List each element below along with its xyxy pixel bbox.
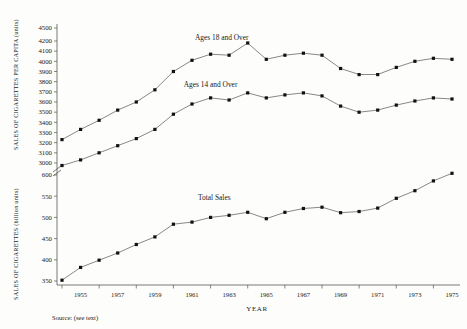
- y-tick-label: 3300: [38, 129, 52, 136]
- data-point: [135, 243, 138, 246]
- y-tick-label: 400: [42, 256, 53, 263]
- data-point: [302, 207, 305, 210]
- series-label: Total Sales: [198, 193, 231, 202]
- data-point: [320, 94, 323, 97]
- x-tick-label: 1955: [74, 291, 88, 298]
- data-point: [246, 41, 249, 44]
- data-point: [265, 58, 268, 61]
- data-point: [79, 158, 82, 161]
- series-line: [62, 93, 452, 166]
- data-point: [98, 119, 101, 122]
- y-tick-label: 4000: [38, 58, 52, 65]
- data-point: [190, 102, 193, 105]
- x-tick-label: 1969: [334, 291, 348, 298]
- data-point: [209, 96, 212, 99]
- series-line: [62, 173, 452, 280]
- data-point: [395, 104, 398, 107]
- data-point: [283, 93, 286, 96]
- y-tick-label: 3600: [38, 98, 52, 105]
- data-point: [98, 151, 101, 154]
- data-point: [320, 54, 323, 57]
- data-point: [450, 58, 453, 61]
- x-tick-label: 1963: [223, 291, 237, 298]
- y-tick-label: 3500: [38, 108, 52, 115]
- data-point: [358, 210, 361, 213]
- x-tick-label: 1973: [408, 291, 422, 298]
- series-label: Ages 14 and Over: [184, 80, 238, 89]
- x-tick-label: 1957: [111, 291, 125, 298]
- data-point: [228, 98, 231, 101]
- data-point: [320, 206, 323, 209]
- data-point: [413, 189, 416, 192]
- y-tick-label: 500: [42, 214, 53, 221]
- data-point: [432, 96, 435, 99]
- x-tick-label: 1965: [260, 291, 274, 298]
- x-axis-title: YEAR: [246, 305, 267, 313]
- data-point: [246, 91, 249, 94]
- line-chart: 3000310032003300340035003600370038003900…: [0, 0, 467, 329]
- data-point: [190, 221, 193, 224]
- x-tick-label: 1959: [148, 291, 162, 298]
- data-point: [153, 128, 156, 131]
- y-tick-label: 4500: [38, 24, 52, 31]
- y-tick-label: 550: [42, 193, 53, 200]
- data-point: [153, 235, 156, 238]
- series-3: Total Sales: [60, 172, 453, 282]
- data-point: [60, 279, 63, 282]
- data-point: [135, 137, 138, 140]
- data-point: [246, 211, 249, 214]
- data-point: [60, 138, 63, 141]
- source-note: Source: (see text): [52, 314, 98, 322]
- data-point: [283, 54, 286, 57]
- y-tick-label: 3700: [38, 88, 52, 95]
- data-point: [302, 52, 305, 55]
- data-point: [79, 266, 82, 269]
- x-tick-label: 1961: [185, 291, 198, 298]
- data-point: [450, 172, 453, 175]
- x-tick-label: 1967: [297, 291, 311, 298]
- y-tick-label: 600: [42, 171, 53, 178]
- data-point: [413, 60, 416, 63]
- series-1: Ages 18 and Over: [60, 33, 453, 142]
- series-label: Ages 18 and Over: [195, 33, 249, 42]
- data-point: [265, 96, 268, 99]
- data-point: [339, 211, 342, 214]
- data-point: [283, 211, 286, 214]
- data-point: [413, 99, 416, 102]
- data-point: [116, 109, 119, 112]
- data-point: [116, 144, 119, 147]
- y-tick-label: 3100: [38, 149, 52, 156]
- data-point: [376, 207, 379, 210]
- data-point: [265, 217, 268, 220]
- x-tick-label: 1975: [445, 291, 459, 298]
- data-point: [172, 223, 175, 226]
- y-tick-label: 3400: [38, 119, 52, 126]
- data-point: [339, 67, 342, 70]
- data-point: [79, 128, 82, 131]
- x-tick-label: 1971: [371, 291, 384, 298]
- data-point: [228, 214, 231, 217]
- figure-container: SALES OF CIGARETTES PER CAPITA (units) S…: [0, 0, 467, 329]
- data-point: [153, 88, 156, 91]
- data-point: [432, 179, 435, 182]
- data-point: [432, 57, 435, 60]
- data-point: [358, 111, 361, 114]
- data-point: [190, 59, 193, 62]
- data-point: [358, 73, 361, 76]
- y-tick-label: 4200: [38, 37, 52, 44]
- y-tick-label: 4100: [38, 47, 52, 54]
- data-point: [98, 259, 101, 262]
- data-point: [209, 53, 212, 56]
- data-point: [209, 216, 212, 219]
- data-point: [60, 164, 63, 167]
- data-point: [339, 105, 342, 108]
- data-point: [228, 54, 231, 57]
- data-point: [116, 251, 119, 254]
- data-point: [172, 70, 175, 73]
- data-point: [376, 73, 379, 76]
- y-tick-label: 3000: [38, 159, 52, 166]
- y-tick-label: 3900: [38, 68, 52, 75]
- data-point: [395, 197, 398, 200]
- data-point: [135, 100, 138, 103]
- data-point: [172, 113, 175, 116]
